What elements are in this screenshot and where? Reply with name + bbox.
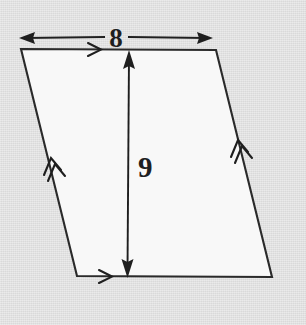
parallelogram-figure: 8 9 — [0, 0, 306, 325]
base-dimension-arrowhead-right — [197, 32, 213, 44]
base-dimension-line-right — [128, 37, 208, 38]
base-dimension-label: 8 — [109, 23, 123, 53]
height-dimension-label: 9 — [138, 151, 153, 183]
base-dimension-arrowhead-left — [19, 32, 35, 44]
geometry-canvas: 8 9 — [0, 0, 306, 325]
base-dimension-line-left — [24, 37, 105, 38]
